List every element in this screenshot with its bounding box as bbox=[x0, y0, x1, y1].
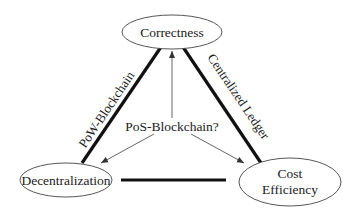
correctness-label: Correctness bbox=[140, 25, 204, 40]
cost-efficiency-label-line2: Efficiency bbox=[262, 182, 318, 197]
node-correctness: Correctness bbox=[122, 15, 222, 49]
tradeoff-diagram: Correctness Decentralization Cost Effici… bbox=[0, 0, 343, 209]
node-cost-efficiency: Cost Efficiency bbox=[239, 158, 341, 206]
decentralization-label: Decentralization bbox=[21, 173, 110, 188]
arrow-to-decentralization bbox=[101, 134, 154, 163]
arrow-to-cost-efficiency bbox=[191, 134, 244, 163]
node-decentralization: Decentralization bbox=[20, 163, 112, 197]
pow-blockchain-label: PoW-Blockchain bbox=[75, 68, 137, 150]
cost-efficiency-label-line1: Cost bbox=[278, 166, 303, 181]
pos-blockchain-label: PoS-Blockchain? bbox=[125, 119, 219, 134]
edge-pow-blockchain bbox=[82, 47, 161, 163]
